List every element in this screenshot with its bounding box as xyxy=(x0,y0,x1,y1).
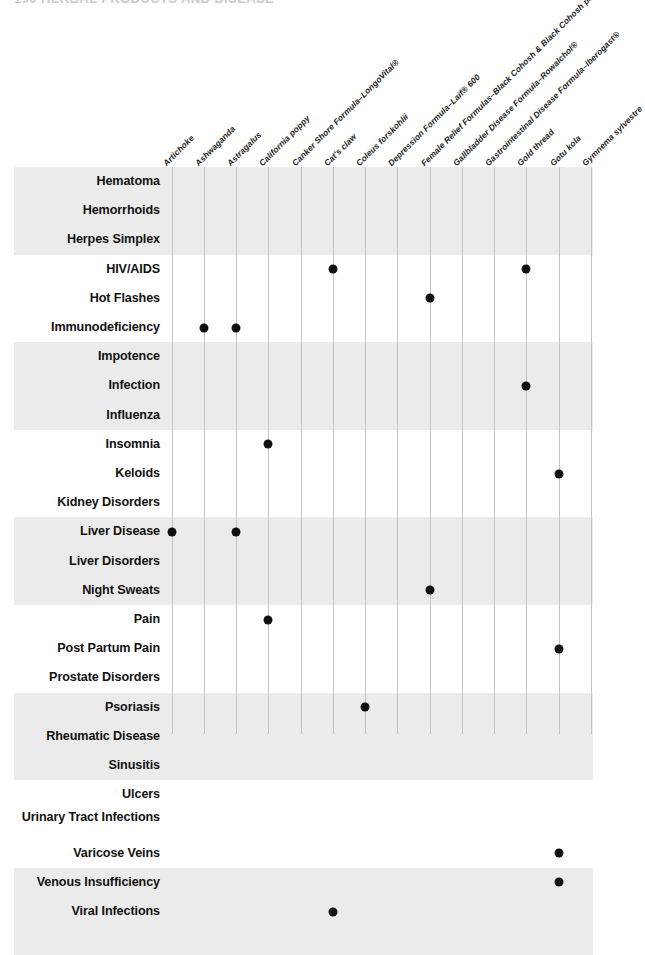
row-label-22: Urinary Tract Infections xyxy=(0,809,160,838)
row-label-7: Infection xyxy=(0,371,160,400)
row-label-5: Immunodeficiency xyxy=(0,313,160,342)
row-label-21: Ulcers xyxy=(0,780,160,809)
row-label-1: Hemorrhoids xyxy=(0,196,160,225)
column-header-6: Coleus forskohlii xyxy=(354,112,410,168)
table-row: Ulcers xyxy=(0,780,638,809)
table-row: Viral Infections xyxy=(0,897,638,926)
table-row: Night Sweats xyxy=(0,576,638,605)
table-row: Liver Disorders xyxy=(0,547,638,576)
matrix-dot xyxy=(522,381,531,390)
table-row: Psoriasis xyxy=(0,693,638,722)
row-label-6: Impotence xyxy=(0,342,160,371)
matrix-dot xyxy=(554,469,563,478)
row-label-13: Liver Disorders xyxy=(0,547,160,576)
table-row: Infection xyxy=(0,371,638,400)
row-label-9: Insomnia xyxy=(0,430,160,459)
matrix-dot xyxy=(232,527,241,536)
column-header-band: ArtichokeAshwagandaAstragalusCalifornia … xyxy=(0,0,638,168)
matrix-dot xyxy=(522,265,531,274)
table-row: Varicose Veins xyxy=(0,839,638,868)
table-row: Influenza xyxy=(0,401,638,430)
table-row: Keloids xyxy=(0,459,638,488)
table-row: Insomnia xyxy=(0,430,638,459)
matrix-dot xyxy=(425,294,434,303)
table-row: Pain xyxy=(0,605,638,634)
row-label-18: Psoriasis xyxy=(0,693,160,722)
row-label-3: HIV/AIDS xyxy=(0,255,160,284)
matrix-dot xyxy=(328,907,337,916)
matrix-dot xyxy=(554,878,563,887)
row-label-15: Pain xyxy=(0,605,160,634)
table-row: Liver Disease xyxy=(0,517,638,546)
matrix-grid: HematomaHemorrhoidsHerpes SimplexHIV/AID… xyxy=(0,167,638,752)
table-row: Sinusitis xyxy=(0,751,638,780)
matrix-dot xyxy=(232,323,241,332)
row-label-14: Night Sweats xyxy=(0,576,160,605)
table-row: Hot Flashes xyxy=(0,284,638,313)
table-row: Impotence xyxy=(0,342,638,371)
table-row: Herpes Simplex xyxy=(0,225,638,254)
table-row: Rheumatic Disease xyxy=(0,722,638,751)
row-label-19: Rheumatic Disease xyxy=(0,722,160,751)
row-label-12: Liver Disease xyxy=(0,517,160,546)
column-header-13: Gymnema sylvestre xyxy=(580,104,644,168)
matrix-dot xyxy=(554,644,563,653)
table-row: Immunodeficiency xyxy=(0,313,638,342)
column-header-12: Gotu kola xyxy=(547,133,582,168)
table-row: Prostate Disorders xyxy=(0,663,638,692)
row-label-23: Varicose Veins xyxy=(0,839,160,868)
table-row: HIV/AIDS xyxy=(0,255,638,284)
matrix-dot xyxy=(361,703,370,712)
matrix-dot xyxy=(199,323,208,332)
table-row: Urinary Tract Infections xyxy=(0,809,638,838)
row-label-0: Hematoma xyxy=(0,167,160,196)
matrix-dot xyxy=(264,440,273,449)
row-label-16: Post Partum Pain xyxy=(0,634,160,663)
matrix-dot xyxy=(328,265,337,274)
row-label-10: Keloids xyxy=(0,459,160,488)
matrix-dot xyxy=(554,849,563,858)
row-label-2: Herpes Simplex xyxy=(0,225,160,254)
table-row: Venous Insufficiency xyxy=(0,868,638,897)
row-label-8: Influenza xyxy=(0,401,160,430)
matrix-dot xyxy=(167,527,176,536)
matrix-dot xyxy=(264,615,273,624)
row-label-24: Venous Insufficiency xyxy=(0,868,160,897)
row-label-20: Sinusitis xyxy=(0,751,160,780)
table-row: Hemorrhoids xyxy=(0,196,638,225)
table-row: Post Partum Pain xyxy=(0,634,638,663)
row-label-25: Viral Infections xyxy=(0,897,160,926)
column-header-0: Artichoke xyxy=(160,133,195,168)
row-label-17: Prostate Disorders xyxy=(0,663,160,692)
matrix-dot xyxy=(425,586,434,595)
table-row: Kidney Disorders xyxy=(0,488,638,517)
table-row: Hematoma xyxy=(0,167,638,196)
row-label-4: Hot Flashes xyxy=(0,284,160,313)
row-label-11: Kidney Disorders xyxy=(0,488,160,517)
